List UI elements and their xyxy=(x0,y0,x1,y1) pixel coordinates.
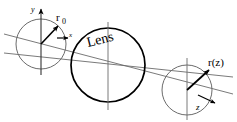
svg-text:r: r xyxy=(56,11,60,23)
r0-label: r 0 xyxy=(56,11,66,26)
beam-lens-diagram: y x r 0 Lens r(z) z xyxy=(0,0,237,122)
input-beam-group xyxy=(16,9,68,75)
output-z-axis-line xyxy=(198,95,215,103)
svg-text:0: 0 xyxy=(62,17,66,26)
diagram-canvas: y x r 0 Lens r(z) z xyxy=(0,0,237,122)
x-axis-label: x xyxy=(68,31,73,39)
rz-label: r(z) xyxy=(208,56,224,69)
z-axis-label: z xyxy=(195,102,200,112)
r0-vector xyxy=(41,26,58,44)
y-axis-label: y xyxy=(30,5,35,14)
axis-line-lower-diagonal xyxy=(4,53,233,77)
axis-line-upper-diagonal xyxy=(4,34,233,94)
guide-lines xyxy=(4,34,233,94)
